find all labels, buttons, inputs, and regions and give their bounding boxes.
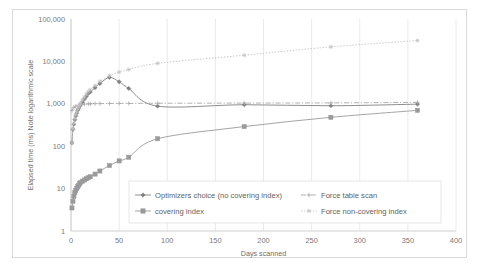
y-axis-tick-labels: 1101001,00010,000100,000	[38, 15, 65, 236]
data-point-square	[127, 155, 131, 159]
y-tick-label: 100	[53, 142, 65, 151]
x-tick-label: 150	[209, 236, 221, 245]
data-point-plus	[107, 101, 111, 105]
data-point-square	[329, 115, 333, 119]
data-point-plus	[156, 101, 160, 105]
data-point-asterisk	[242, 53, 246, 57]
x-axis-title-text: Days scanned	[241, 249, 287, 258]
x-axis-tick-labels: 050100150200250300350400	[69, 236, 462, 245]
y-tick-label: 10	[57, 184, 65, 193]
x-tick-label: 400	[450, 236, 462, 245]
legend-label: Force table scan	[321, 191, 377, 200]
y-axis-title-text: Elapsed time (ms) Note logarithmic scale	[26, 60, 35, 191]
x-tick-label: 250	[305, 236, 317, 245]
data-point-plus	[93, 102, 97, 106]
data-point-asterisk	[84, 92, 88, 96]
data-point-asterisk	[93, 83, 97, 87]
data-point-asterisk	[88, 88, 92, 92]
chart-card: 1101001,00010,000100,000 050100150200250…	[12, 9, 467, 258]
y-tick-label: 10,000	[42, 57, 65, 66]
y-tick-label: 100,000	[38, 15, 65, 24]
series-line	[70, 38, 420, 144]
x-axis-title: Days scanned	[241, 249, 287, 258]
data-point-plus	[70, 108, 74, 112]
data-point-asterisk	[70, 141, 74, 145]
x-tick-label: 100	[161, 236, 173, 245]
data-point-plus	[329, 101, 333, 105]
data-point-asterisk	[98, 79, 102, 83]
data-point-square	[141, 209, 145, 213]
x-tick-label: 50	[115, 236, 123, 245]
legend-item[interactable]: Optimizers choice (no covering index)	[135, 191, 283, 200]
x-tick-label: 350	[402, 236, 414, 245]
data-point-square	[415, 108, 419, 112]
x-tick-label: 0	[69, 236, 73, 245]
data-point-asterisk	[71, 127, 75, 131]
data-point-asterisk	[329, 45, 333, 49]
data-point-asterisk	[79, 101, 83, 105]
data-point-asterisk	[73, 116, 77, 120]
y-tick-label: 1,000	[47, 99, 66, 108]
y-tick-label: 1	[61, 227, 65, 236]
line-chart: 1101001,00010,000100,000 050100150200250…	[13, 10, 468, 259]
data-point-square	[71, 199, 75, 203]
data-point-asterisk	[82, 95, 86, 99]
data-point-square	[98, 169, 102, 173]
data-point-plus	[88, 102, 92, 106]
x-tick-label: 200	[257, 236, 269, 245]
data-point-square	[72, 194, 76, 198]
data-point-plus	[127, 101, 131, 105]
series-path	[72, 77, 418, 142]
legend-label: Force non-covering index	[321, 207, 407, 216]
chart-legend: Optimizers choice (no covering index)For…	[129, 181, 441, 223]
legend-background	[129, 181, 441, 223]
data-point-square	[88, 175, 92, 179]
data-point-asterisk	[80, 98, 84, 102]
y-axis-title: Elapsed time (ms) Note logarithmic scale	[26, 60, 35, 191]
legend-label: Optimizers choice (no covering index)	[155, 191, 283, 200]
data-point-plus	[117, 101, 121, 105]
data-point-asterisk	[415, 38, 419, 42]
data-point-square	[107, 163, 111, 167]
data-point-asterisk	[127, 68, 131, 72]
series-line	[70, 75, 420, 145]
data-point-asterisk	[156, 61, 160, 65]
legend-label: covering index	[155, 207, 204, 216]
data-point-square	[156, 137, 160, 141]
x-tick-label: 300	[354, 236, 366, 245]
data-point-square	[117, 159, 121, 163]
data-point-asterisk	[307, 209, 311, 213]
data-point-square	[70, 206, 74, 210]
data-point-square	[93, 172, 97, 176]
data-point-asterisk	[107, 74, 111, 78]
data-point-square	[242, 124, 246, 128]
data-point-asterisk	[72, 121, 76, 125]
data-point-plus	[98, 102, 102, 106]
data-point-asterisk	[117, 70, 121, 74]
